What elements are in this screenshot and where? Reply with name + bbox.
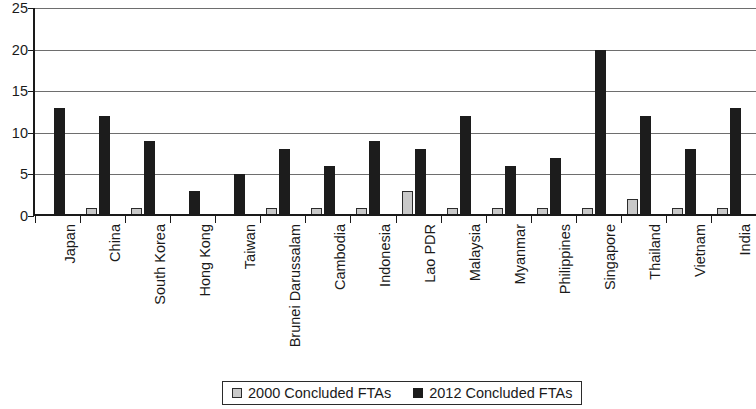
y-axis-tick-mark <box>28 133 34 134</box>
legend-item-2000: 2000 Concluded FTAs <box>232 386 391 401</box>
bar-2012 <box>640 116 651 216</box>
bar-group <box>666 8 711 216</box>
bar-chart: 0510152025 JapanChinaSouth KoreaHong Kon… <box>0 0 756 409</box>
x-axis-category-label: Vietnam <box>693 224 708 277</box>
x-axis-tick-mark <box>125 216 126 223</box>
x-axis-category-label-text: Brunei Darussalam <box>288 224 303 347</box>
bar-group <box>170 8 215 216</box>
bar-2012 <box>550 158 561 216</box>
x-axis-category-label: Philippines <box>558 224 573 294</box>
bar-2012 <box>685 149 696 216</box>
x-axis-category-label: Hong Kong <box>198 224 213 297</box>
legend-label-2012: 2012 Concluded FTAs <box>429 386 572 401</box>
x-axis-category-label: Thailand <box>648 224 663 280</box>
bar-group <box>531 8 576 216</box>
x-axis-tick-mark <box>170 216 171 223</box>
bar-2012 <box>415 149 426 216</box>
bar-group <box>621 8 666 216</box>
x-axis-tick-mark <box>350 216 351 223</box>
bar-2012 <box>189 191 200 216</box>
x-axis-tick-mark <box>260 216 261 223</box>
bar-2012 <box>730 108 741 216</box>
x-axis-category-label-text: Lao PDR <box>423 224 438 283</box>
x-axis-category-label-text: Malaysia <box>468 224 483 281</box>
bar-group <box>350 8 395 216</box>
x-axis-category-label: India <box>738 224 753 255</box>
x-axis-category-label-text: Singapore <box>603 224 618 290</box>
bar-group <box>125 8 170 216</box>
y-axis-tick-mark <box>28 8 34 9</box>
x-axis-tick-mark <box>441 216 442 223</box>
plot-area <box>35 8 756 216</box>
y-axis-tick-mark <box>28 216 34 217</box>
x-axis-tick-mark <box>35 216 36 223</box>
x-axis-tick-mark <box>305 216 306 223</box>
bar-2012 <box>279 149 290 216</box>
x-axis-tick-mark <box>666 216 667 223</box>
x-axis-category-label: China <box>108 224 123 262</box>
y-axis-tick-mark <box>28 174 34 175</box>
x-axis-tick-mark <box>531 216 532 223</box>
bar-2012 <box>144 141 155 216</box>
x-axis-tick-marks <box>35 216 756 223</box>
x-axis-category-label-text: South Korea <box>153 224 168 305</box>
y-axis-tick-label: 5 <box>20 167 28 182</box>
y-axis-tick-mark <box>28 91 34 92</box>
bar-2012 <box>460 116 471 216</box>
x-axis-tick-mark <box>486 216 487 223</box>
legend-label-2000: 2000 Concluded FTAs <box>248 386 391 401</box>
x-axis-category-label: Brunei Darussalam <box>288 224 303 347</box>
bar-2012 <box>369 141 380 216</box>
bar-2012 <box>99 116 110 216</box>
x-axis-category-label: Singapore <box>603 224 618 290</box>
x-axis-category-label-text: Hong Kong <box>198 224 213 297</box>
x-axis-category-label-text: Vietnam <box>693 224 708 277</box>
x-axis-category-label: Indonesia <box>378 224 393 287</box>
x-axis-category-label: Japan <box>63 224 78 264</box>
x-axis-category-label-text: Cambodia <box>333 224 348 290</box>
bar-2012 <box>324 166 335 216</box>
black-square-swatch-icon <box>413 388 423 398</box>
x-axis-category-label-text: Philippines <box>558 224 573 294</box>
bar-2000 <box>402 191 413 216</box>
x-axis-category-label-text: Japan <box>63 224 78 264</box>
x-axis-category-label: Lao PDR <box>423 224 438 283</box>
x-axis-tick-mark <box>576 216 577 223</box>
bar-group <box>396 8 441 216</box>
x-axis-category-label: Myanmar <box>513 224 528 284</box>
x-axis-category-label: Taiwan <box>243 224 258 269</box>
y-axis-tick-label: 20 <box>12 42 28 57</box>
x-axis-tick-mark <box>711 216 712 223</box>
y-axis-tick-label: 25 <box>12 1 28 16</box>
bar-2012 <box>54 108 65 216</box>
bar-2012 <box>595 50 606 216</box>
x-axis-category-label: South Korea <box>153 224 168 305</box>
x-axis-category-label-text: Myanmar <box>513 224 528 284</box>
bar-group <box>80 8 125 216</box>
bar-group <box>35 8 80 216</box>
bar-group <box>441 8 486 216</box>
bar-group <box>711 8 756 216</box>
bar-group <box>576 8 621 216</box>
x-axis-category-label-text: China <box>108 224 123 262</box>
x-axis-category-label-text: Indonesia <box>378 224 393 287</box>
y-axis-tick-label: 0 <box>20 209 28 224</box>
x-axis-tick-mark <box>621 216 622 223</box>
x-axis-tick-mark <box>396 216 397 223</box>
legend-item-2012: 2012 Concluded FTAs <box>413 386 572 401</box>
y-axis-tick-mark <box>28 50 34 51</box>
bar-2012 <box>234 174 245 216</box>
bar-group <box>305 8 350 216</box>
bar-group <box>260 8 305 216</box>
y-axis-tick-label: 10 <box>12 126 28 141</box>
x-axis-category-labels: JapanChinaSouth KoreaHong KongTaiwanBrun… <box>35 224 756 369</box>
x-axis-category-label-text: India <box>738 224 753 255</box>
bar-2012 <box>505 166 516 216</box>
x-axis-category-label-text: Thailand <box>648 224 663 280</box>
y-axis-tick-label: 15 <box>12 84 28 99</box>
x-axis-category-label: Cambodia <box>333 224 348 290</box>
chart-legend: 2000 Concluded FTAs 2012 Concluded FTAs <box>222 381 582 405</box>
bar-group <box>215 8 260 216</box>
y-axis-tick-labels: 0510152025 <box>0 0 30 225</box>
bar-group <box>486 8 531 216</box>
